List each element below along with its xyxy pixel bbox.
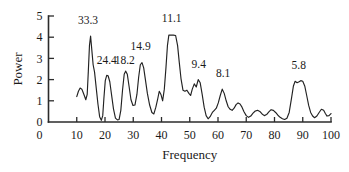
peak-label-14-9: 14.9 bbox=[131, 40, 151, 52]
x-axis-tick-labels: 0102030405060708090100 bbox=[37, 128, 341, 142]
y-tick-label-4: 4 bbox=[37, 30, 43, 44]
peak-label-11-1: 11.1 bbox=[162, 12, 182, 24]
y-axis-title: Power bbox=[10, 52, 25, 86]
x-tick-label-10: 10 bbox=[71, 128, 83, 142]
y-tick-label-3: 3 bbox=[37, 52, 43, 66]
power-spectrum-curve bbox=[77, 35, 331, 120]
x-tick-label-100: 100 bbox=[322, 128, 340, 142]
x-tick-label-80: 80 bbox=[269, 128, 281, 142]
x-tick-label-0: 0 bbox=[37, 128, 43, 142]
x-tick-label-50: 50 bbox=[184, 128, 196, 142]
y-axis-group: 012345 bbox=[37, 9, 55, 129]
x-tick-label-70: 70 bbox=[240, 128, 252, 142]
data-series-group bbox=[77, 35, 331, 120]
x-axis-group: 0102030405060708090100 bbox=[37, 117, 341, 142]
peak-label-5-8: 5.8 bbox=[292, 59, 307, 71]
y-tick-label-2: 2 bbox=[37, 73, 43, 87]
x-tick-label-60: 60 bbox=[212, 128, 224, 142]
x-tick-label-30: 30 bbox=[127, 128, 139, 142]
peak-label-9-4: 9.4 bbox=[192, 58, 207, 70]
peak-label-33-3: 33.3 bbox=[78, 14, 98, 26]
x-tick-label-20: 20 bbox=[99, 128, 111, 142]
power-spectrum-figure: 012345 0102030405060708090100 33.324.418… bbox=[0, 0, 349, 172]
peak-label-8-1: 8.1 bbox=[216, 67, 231, 79]
x-tick-label-40: 40 bbox=[156, 128, 168, 142]
y-tick-label-1: 1 bbox=[37, 94, 43, 108]
x-tick-label-90: 90 bbox=[297, 128, 309, 142]
y-axis-tick-labels: 012345 bbox=[37, 9, 43, 129]
chart-canvas: 012345 0102030405060708090100 33.324.418… bbox=[0, 0, 349, 172]
y-axis-ticks bbox=[49, 16, 55, 101]
y-tick-label-5: 5 bbox=[37, 9, 43, 23]
x-axis-title: Frequency bbox=[162, 147, 217, 162]
peak-annotation-labels: 33.324.418.214.911.19.48.15.8 bbox=[78, 12, 306, 79]
peak-label-18-2: 18.2 bbox=[115, 54, 135, 66]
